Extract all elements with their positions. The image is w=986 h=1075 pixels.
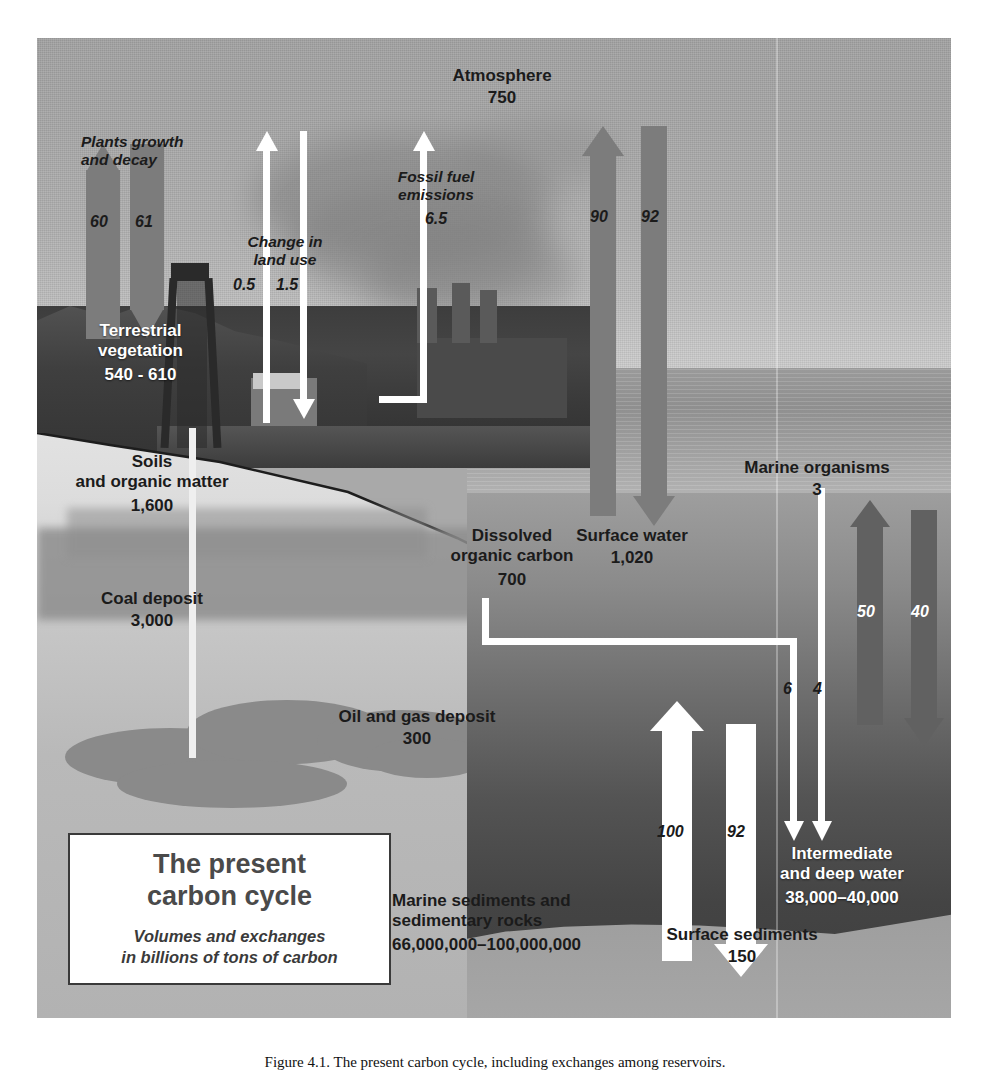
flux-arrow-landuse-up xyxy=(256,131,278,423)
figure-page: Plants growth and decay 60 61 Change in … xyxy=(0,0,986,1075)
flux-value-airsea-down: 92 xyxy=(641,208,659,226)
reservoir-value-coal-deposit: 3,000 xyxy=(62,611,242,631)
flux-arrow-doc-down-6 xyxy=(784,638,804,843)
flux-value-landuse-up: 0.5 xyxy=(233,276,255,294)
reservoir-value-soils: 1,600 xyxy=(42,496,262,516)
reservoir-value-marine-organisms: 3 xyxy=(707,480,927,500)
oil-gas-blob-4 xyxy=(117,760,347,808)
flux-value-doc-6: 6 xyxy=(783,680,792,698)
reservoir-label-atmosphere: Atmosphere xyxy=(412,66,592,86)
figure-caption: Figure 4.1. The present carbon cycle, in… xyxy=(145,1052,845,1074)
flux-value-airsea-up: 90 xyxy=(590,208,608,226)
reservoir-label-coal-deposit: Coal deposit xyxy=(62,589,242,609)
rig-truss xyxy=(177,278,207,448)
reservoir-value-oil-gas-deposit: 300 xyxy=(302,729,532,749)
flux-label-change-in-land-use: Change in land use xyxy=(230,233,340,269)
reservoir-label-terrestrial-vegetation: Terrestrial vegetation xyxy=(53,321,228,360)
reservoir-value-atmosphere: 750 xyxy=(412,88,592,108)
flux-arrow-airsea-down xyxy=(633,126,675,526)
reservoir-label-marine-organisms: Marine organisms xyxy=(707,458,927,478)
flux-value-plants-up: 60 xyxy=(90,213,108,231)
doc-elbow-horizontal xyxy=(482,638,791,645)
reservoir-value-dissolved-organic-carbon: 700 xyxy=(412,570,612,590)
flux-value-doc-4: 4 xyxy=(813,680,822,698)
diagram-title: The present carbon cycle xyxy=(147,849,312,912)
flux-arrow-plants-up xyxy=(86,144,120,339)
reservoir-value-marine-sediments: 66,000,000–100,000,000 xyxy=(392,935,667,955)
flux-value-landuse-down: 1.5 xyxy=(276,276,298,294)
reservoir-label-oil-gas-deposit: Oil and gas deposit xyxy=(302,707,532,727)
reservoir-label-marine-sediments: Marine sediments and sedimentary rocks xyxy=(392,891,667,930)
flux-arrow-plants-down xyxy=(130,144,164,339)
smokestack-3 xyxy=(480,290,497,343)
carbon-cycle-diagram: Plants growth and decay 60 61 Change in … xyxy=(37,38,951,1018)
flux-arrow-airsea-up xyxy=(582,126,624,516)
diagram-subtitle: Volumes and exchanges in billions of ton… xyxy=(121,926,337,969)
factory-building xyxy=(417,338,567,418)
flux-arrow-doc-down-4 xyxy=(812,488,832,843)
reservoir-label-soils: Soils and organic matter xyxy=(42,452,262,491)
reservoir-value-surface-water: 1,020 xyxy=(537,548,727,568)
title-box: The present carbon cycle Volumes and exc… xyxy=(68,833,391,985)
reservoir-value-terrestrial-vegetation: 540 - 610 xyxy=(53,365,228,385)
flux-label-plants-growth-decay: Plants growth and decay xyxy=(81,133,261,169)
reservoir-label-intermediate-deep-water: Intermediate and deep water xyxy=(737,844,947,883)
flux-value-fossil-fuel: 6.5 xyxy=(376,210,496,229)
flux-value-plants-down: 61 xyxy=(135,213,153,231)
flux-value-biopump-up: 50 xyxy=(857,603,875,621)
reservoir-value-intermediate-deep-water: 38,000–40,000 xyxy=(737,888,947,908)
flux-value-sediment-down: 92 xyxy=(727,823,745,841)
flux-label-fossil-fuel-emissions: Fossil fuel emissions xyxy=(376,168,496,204)
fossil-fuel-elbow xyxy=(379,396,427,403)
smokestack-2 xyxy=(452,283,470,343)
reservoir-label-surface-water: Surface water xyxy=(537,526,727,546)
flux-value-sediment-up: 100 xyxy=(657,823,684,841)
flux-value-biopump-down: 40 xyxy=(911,603,929,621)
flux-arrow-biopump-down xyxy=(904,510,944,750)
